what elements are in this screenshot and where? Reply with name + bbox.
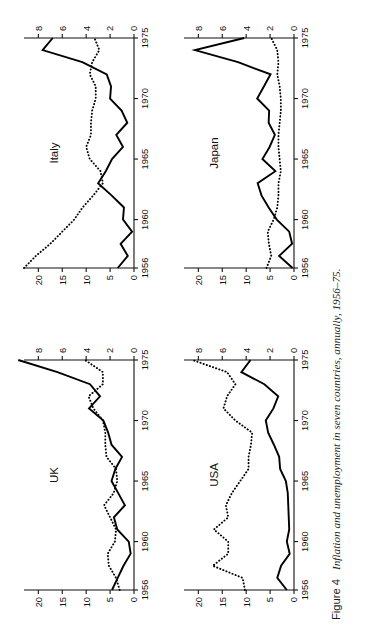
left-axis-tick-label: 10 (82, 597, 92, 607)
right-axis-tick-label: 4 (242, 348, 252, 353)
x-axis-tick-label: 1956 (300, 258, 310, 279)
left-axis-tick-label: 5 (105, 275, 115, 280)
right-axis-tick-label: 6 (58, 26, 68, 31)
chart-panel-uk: 051015200246819561960196519701975UK (10, 330, 156, 620)
chart-svg: 051015200246819561960196519701975UK (10, 330, 156, 620)
x-axis-tick-label: 1960 (140, 209, 150, 230)
right-axis-tick-label: 8 (34, 348, 44, 353)
series-line-inflation (18, 360, 130, 590)
figure-page: 051015200246819561960196519701975UK 0510… (0, 0, 380, 628)
x-axis-tick-label: 1975 (140, 28, 150, 49)
figure-container: 051015200246819561960196519701975UK 0510… (0, 0, 380, 628)
left-axis-tick-label: 20 (34, 275, 44, 285)
right-axis-tick-label: 2 (265, 26, 275, 31)
right-axis-tick-label: 2 (265, 348, 275, 353)
chart-svg: 051015200246819561960196519701975Italy (10, 8, 156, 298)
right-axis-tick-label: 0 (289, 348, 299, 353)
left-axis-tick-label: 15 (58, 597, 68, 607)
right-axis-tick-label: 8 (194, 26, 204, 31)
x-axis-tick-label: 1970 (300, 410, 310, 431)
panel-title: USA (208, 463, 220, 487)
x-axis-tick-label: 1970 (140, 88, 150, 109)
figure-caption-label: Figure 4 (330, 579, 342, 620)
x-axis-tick-label: 1970 (300, 88, 310, 109)
x-axis-tick-label: 1965 (300, 149, 310, 170)
chart-panel-italy: 051015200246819561960196519701975Italy (10, 8, 156, 298)
x-axis-tick-label: 1975 (300, 350, 310, 371)
x-axis-tick-label: 1975 (140, 350, 150, 371)
left-axis-tick-label: 0 (129, 275, 139, 280)
right-axis-tick-label: 0 (129, 26, 139, 31)
series-line-unemployment (267, 38, 281, 268)
series-line-inflation (241, 360, 289, 590)
x-axis-tick-label: 1975 (300, 28, 310, 49)
x-axis-tick-label: 1956 (140, 258, 150, 279)
left-axis-tick-label: 0 (289, 597, 299, 602)
x-axis-tick-label: 1956 (140, 580, 150, 601)
left-axis-tick-label: 10 (82, 275, 92, 285)
x-axis-tick-label: 1965 (140, 149, 150, 170)
left-axis-tick-label: 15 (218, 597, 228, 607)
chart-panel-japan: 051015200246819561960196519701975Japan (170, 8, 316, 298)
right-axis-tick-label: 6 (218, 348, 228, 353)
panel-title: Italy (48, 142, 60, 163)
chart-svg: 051015200246819561960196519701975Japan (170, 8, 316, 298)
x-axis-tick-label: 1960 (140, 531, 150, 552)
panel-title: UK (48, 467, 60, 483)
right-axis-tick-label: 4 (82, 26, 92, 31)
x-axis-tick-label: 1960 (300, 531, 310, 552)
chart-panel-usa: 051015200246819561960196519701975USA (170, 330, 316, 620)
right-axis-tick-label: 6 (58, 348, 68, 353)
right-axis-tick-label: 0 (289, 26, 299, 31)
x-axis-tick-label: 1965 (140, 471, 150, 492)
x-axis-tick-label: 1965 (300, 471, 310, 492)
x-axis-tick-label: 1956 (300, 580, 310, 601)
right-axis-tick-label: 2 (105, 348, 115, 353)
series-line-unemployment (192, 360, 252, 590)
left-axis-tick-label: 0 (289, 275, 299, 280)
right-axis-tick-label: 4 (82, 348, 92, 353)
left-axis-tick-label: 0 (129, 597, 139, 602)
left-axis-tick-label: 5 (105, 597, 115, 602)
right-axis-tick-label: 0 (129, 348, 139, 353)
left-axis-tick-label: 10 (242, 597, 252, 607)
left-axis-tick-label: 15 (218, 275, 228, 285)
figure-caption: Figure 4Inflation and unemployment in se… (330, 20, 342, 620)
right-axis-tick-label: 6 (218, 26, 228, 31)
left-axis-tick-label: 5 (265, 597, 275, 602)
figure-caption-text: Inflation and unemployment in seven coun… (330, 269, 342, 570)
x-axis-tick-label: 1970 (140, 410, 150, 431)
right-axis-tick-label: 8 (34, 26, 44, 31)
panel-grid: 051015200246819561960196519701975UK 0510… (10, 8, 316, 620)
left-axis-tick-label: 20 (194, 597, 204, 607)
left-axis-tick-label: 20 (34, 597, 44, 607)
left-axis-tick-label: 15 (58, 275, 68, 285)
chart-svg: 051015200246819561960196519701975USA (170, 330, 316, 620)
left-axis-tick-label: 5 (265, 275, 275, 280)
left-axis-tick-label: 20 (194, 275, 204, 285)
left-axis-tick-label: 10 (242, 275, 252, 285)
series-line-unemployment (24, 38, 103, 268)
series-line-unemployment (85, 360, 120, 590)
right-axis-tick-label: 8 (194, 348, 204, 353)
panel-title: Japan (208, 137, 220, 168)
right-axis-tick-label: 2 (105, 26, 115, 31)
right-axis-tick-label: 4 (242, 26, 252, 31)
x-axis-tick-label: 1960 (300, 209, 310, 230)
